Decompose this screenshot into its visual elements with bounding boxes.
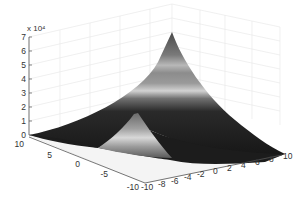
x-tick-m2: -2 [197,169,205,179]
x-tick-m6: -6 [171,176,179,186]
z-tick-7: 7 [21,32,26,42]
z-tick-1: 1 [21,116,26,126]
surface-plot: 0 1 2 3 4 5 6 7 x 10⁴ 10 5 0 -5 -10 -10 … [0,0,306,200]
x-tick-m4: -4 [184,172,192,182]
z-tick-2: 2 [21,102,26,112]
y-tick-10: 10 [15,139,25,149]
y-tick-5: 5 [47,150,52,160]
x-tick-10: 10 [283,151,293,161]
y-tick-m5: -5 [100,169,108,179]
x-tick-m8: -8 [158,179,166,189]
x-tick-4: 4 [241,160,246,170]
y-tick-0: 0 [75,159,80,169]
x-tick-m10: -10 [141,182,154,192]
z-scale-label: x 10⁴ [27,24,46,33]
z-axis-ticks: 0 1 2 3 4 5 6 7 x 10⁴ [21,24,46,140]
x-tick-0: 0 [213,166,218,176]
z-tick-5: 5 [21,60,26,70]
z-tick-3: 3 [21,88,26,98]
x-tick-2: 2 [227,163,232,173]
y-tick-m10: -10 [127,182,140,192]
x-tick-8: 8 [269,154,274,164]
z-tick-4: 4 [21,74,26,84]
z-tick-6: 6 [21,46,26,56]
x-tick-6: 6 [255,157,260,167]
